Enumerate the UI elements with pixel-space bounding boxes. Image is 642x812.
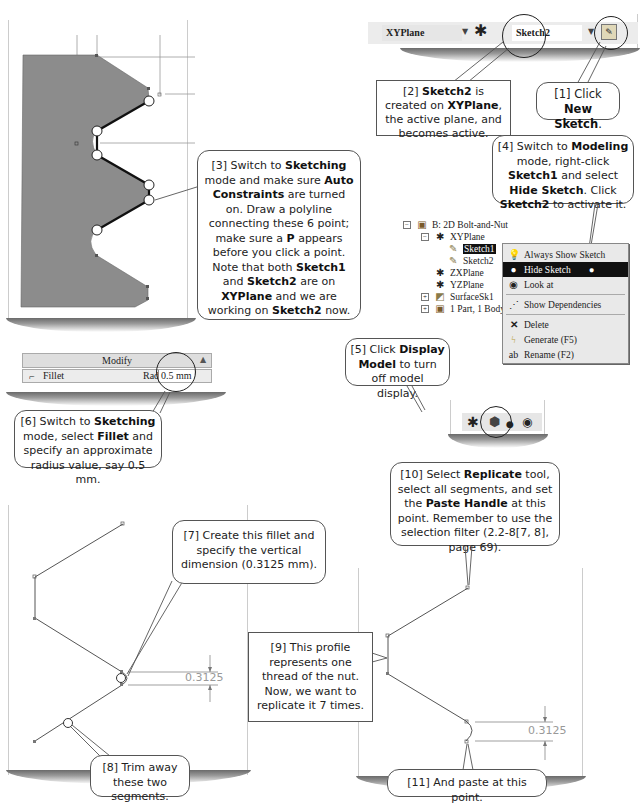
callout-step-8: [8] Trim away these two segments. [90, 755, 190, 797]
callout-step-9: [9] This profile represents one thread o… [248, 632, 373, 722]
callout-text: [9] This profile represents one thread o… [257, 641, 364, 712]
callout-step-11: [11] And paste at this point. [387, 769, 547, 797]
dimension-label: 0.3125 [185, 671, 224, 684]
callout-step-7: [7] Create this fillet and specify the v… [172, 520, 326, 584]
callout-text: [7] Create this fillet and specify the v… [181, 529, 317, 571]
callout-text: [8] Trim away these two segments. [103, 761, 178, 803]
dimension-label: 0.3125 [528, 724, 567, 737]
